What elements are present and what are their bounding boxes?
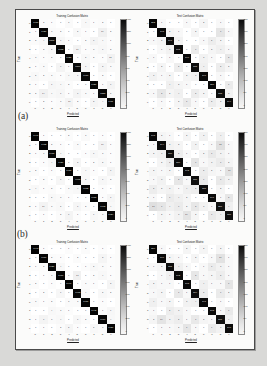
cell-value: 2	[93, 275, 94, 277]
figure-frame: Training Confusion MatrixTrue01234567891…	[15, 9, 255, 350]
colorbar-ticks: 1400120010008006004002000	[126, 132, 133, 220]
heatmap-cell: 2	[56, 28, 64, 37]
cell-value: 1	[153, 144, 154, 146]
heatmap-cell: 1	[157, 324, 165, 333]
heatmap-cell: 8	[107, 280, 115, 289]
heatmap-cell: 1	[90, 167, 98, 176]
cell-value: 7	[77, 206, 78, 208]
cell-value: 1	[110, 144, 111, 146]
heatmap-cell: 13	[149, 202, 157, 211]
heatmap-cell: 0	[65, 141, 73, 150]
cell-value: 2	[51, 301, 52, 303]
heatmap-cell: 1	[208, 254, 216, 263]
cell-value: 1388	[100, 93, 105, 95]
y-tick: 1	[141, 254, 149, 263]
heatmap-cell: 0	[48, 289, 56, 298]
heatmap-cell: 3	[174, 211, 182, 220]
y-tick: 0	[141, 245, 149, 254]
cell-value: 338	[193, 66, 197, 68]
colorbar-tick: 600	[126, 181, 133, 183]
cell-value: 0	[110, 22, 111, 24]
cell-value: 1	[169, 283, 170, 285]
cell-value: 0	[43, 283, 44, 285]
cell-value: 8	[195, 206, 196, 208]
heatmap-cell: 1	[31, 150, 39, 159]
cell-value: 0	[178, 283, 179, 285]
colorbar-tick: 400	[126, 80, 133, 82]
heatmap-cell: 5	[149, 185, 157, 194]
heatmap-cell: 9	[65, 211, 73, 220]
heatmap-cell: 4	[225, 202, 233, 211]
cell-value: 0	[43, 84, 44, 86]
heatmap-cell: 0	[208, 19, 216, 28]
heatmap-cell: 0	[98, 280, 106, 289]
heatmap-cell: 4	[98, 98, 106, 107]
heatmap-cell: 1	[208, 141, 216, 150]
heatmap-cell: 6	[107, 307, 115, 316]
cell-value: 1390	[75, 66, 80, 68]
heatmap-cell: 2	[65, 132, 73, 141]
cell-value: 1	[186, 22, 187, 24]
heatmap-cell: 2	[81, 315, 89, 324]
cell-value: 327	[218, 206, 222, 208]
cell-value: 0	[178, 301, 179, 303]
cell-value: 1	[220, 310, 221, 312]
heatmap-cell: 0	[90, 185, 98, 194]
heatmap-cell: 0	[225, 132, 233, 141]
cell-value: 8	[228, 197, 229, 199]
heatmap-cell-diagonal: 1388	[98, 89, 106, 98]
heatmap-cell: 2	[225, 158, 233, 167]
heatmap-cell: 2	[174, 98, 182, 107]
heatmap-cell-diagonal: 352	[149, 19, 157, 28]
heatmap-cell: 1	[208, 315, 216, 324]
cell-value: 9	[77, 93, 78, 95]
heatmap-grid: 3521001020100348210200911234130015200133…	[149, 19, 233, 107]
cell-value: 348	[160, 31, 164, 33]
cell-value: 338	[168, 266, 172, 268]
cell-value: 3	[186, 301, 187, 303]
cell-value: 1430	[58, 275, 63, 277]
colorbar-ticks: 1400120010008006004002000	[126, 19, 133, 107]
cell-value: 3	[77, 144, 78, 146]
cell-value: 2	[169, 75, 170, 77]
cell-value: 1436	[41, 257, 46, 259]
cell-value: 2	[102, 75, 103, 77]
cell-value: 0	[169, 101, 170, 103]
colorbar-tick: 200	[244, 169, 251, 171]
cell-value: 3	[178, 214, 179, 216]
heatmap-grid: 3501002020200346210201111123384101631014…	[149, 245, 233, 333]
heatmap-cell: 4	[216, 45, 224, 54]
heatmap-cell: 3	[31, 54, 39, 63]
heatmap-cell: 1	[166, 211, 174, 220]
heatmap-cell-diagonal: 1402	[98, 202, 106, 211]
cell-value: 7	[195, 319, 196, 321]
cell-value: 2	[153, 153, 154, 155]
heatmap-cell: 5	[191, 185, 199, 194]
cell-value: 5	[220, 66, 221, 68]
cell-value: 0	[51, 292, 52, 294]
cell-value: 2	[228, 66, 229, 68]
cell-value: 0	[93, 188, 94, 190]
heatmap-cell: 3	[73, 298, 81, 307]
x-axis-label: Predicted	[31, 112, 115, 116]
heatmap-cell: 5	[90, 263, 98, 272]
heatmap-cell: 1	[157, 19, 165, 28]
heatmap-cell: 7	[208, 150, 216, 159]
heatmap-cell: 0	[48, 245, 56, 254]
cell-value: 5	[211, 101, 212, 103]
heatmap-cell: 0	[56, 132, 64, 141]
heatmap-cell: 2	[39, 45, 47, 54]
heatmap-cell-diagonal: 337	[199, 185, 207, 194]
heatmap-cell: 1	[157, 167, 165, 176]
heatmap-cell: 0	[98, 167, 106, 176]
heatmap-cell: 8	[73, 158, 81, 167]
y-axis-label: True	[17, 56, 21, 62]
chart-title: Test Confusion Matrix	[138, 126, 242, 131]
cell-value: 1438	[66, 170, 71, 172]
cell-value: 1426	[58, 162, 63, 164]
cell-value: 4	[51, 93, 52, 95]
x-axis-label: Predicted	[149, 112, 233, 116]
cell-value: 11	[68, 101, 70, 103]
heatmap-cell-diagonal: 349	[183, 54, 191, 63]
heatmap-cell: 0	[48, 211, 56, 220]
